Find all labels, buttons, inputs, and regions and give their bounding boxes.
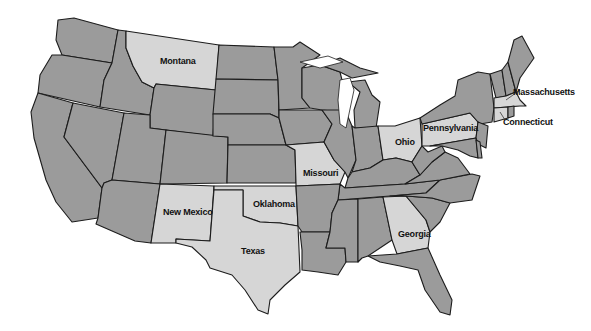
- label-new-mexico: New Mexico: [163, 207, 213, 217]
- label-georgia: Georgia: [398, 229, 431, 239]
- state-wyoming[interactable]: [150, 84, 216, 136]
- state-south-dakota[interactable]: [213, 79, 279, 118]
- label-massachusetts: Massachusetts: [513, 87, 575, 97]
- label-montana: Montana: [160, 56, 196, 66]
- state-colorado[interactable]: [160, 130, 228, 184]
- state-arizona[interactable]: [96, 180, 160, 243]
- label-missouri: Missouri: [303, 168, 338, 178]
- label-oklahoma: Oklahoma: [253, 199, 295, 209]
- state-kansas[interactable]: [227, 145, 296, 183]
- state-north-dakota[interactable]: [216, 45, 278, 80]
- label-pennsylvania: Pennsylvania: [423, 123, 478, 133]
- label-texas: Texas: [241, 246, 265, 256]
- us-map: [0, 0, 591, 331]
- state-new-york[interactable]: [420, 72, 494, 124]
- label-ohio: Ohio: [395, 137, 415, 147]
- state-iowa[interactable]: [279, 110, 332, 145]
- lake-michigan: [338, 78, 354, 128]
- label-connecticut: Connecticut: [503, 117, 553, 127]
- state-florida[interactable]: [368, 248, 452, 315]
